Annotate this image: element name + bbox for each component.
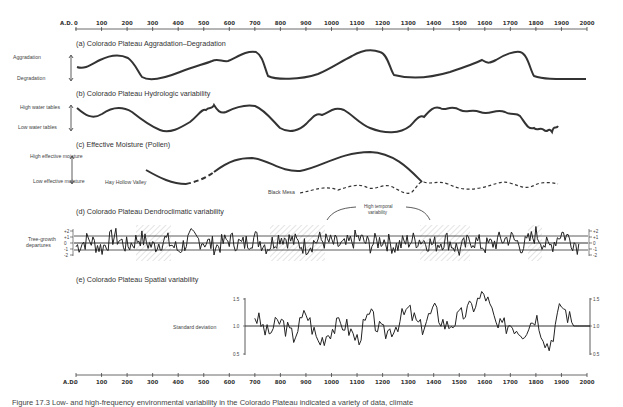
panel-a-line [77, 50, 586, 79]
axis-tick-label: 1000 [324, 379, 339, 385]
panel-c-high-label: High effective moisture [30, 153, 83, 159]
axis-tick-label: 1600 [477, 20, 492, 26]
axis-tick-label: 1100 [350, 20, 365, 26]
panel-e: (e) Colorado Plateau Spatial variability… [76, 275, 600, 357]
panel-a-title: (a) Colorado Plateau Aggradation–Degrada… [76, 39, 226, 48]
figure-canvas: A.D. 01002003004005006007008009001000110… [0, 0, 623, 407]
panel-e-ylabel: Standard deviation [173, 324, 216, 330]
axis-tick-label: 300 [147, 379, 159, 385]
panel-b-title: (b) Colorado Plateau Hydrologic variabil… [76, 89, 211, 98]
series-label-black-mesa: Black Mesa [268, 189, 295, 195]
axis-tick-label: 800 [275, 379, 287, 385]
axis-tick-label: 1700 [503, 379, 518, 385]
panel-a-high-label: Aggradation [13, 54, 41, 60]
svg-text:-1: -1 [593, 247, 598, 252]
svg-text:-2: -2 [593, 253, 598, 258]
axis-tick-label: 900 [300, 20, 312, 26]
axis-tick-label: 1200 [375, 20, 390, 26]
axis-tick-label: 0 [74, 20, 78, 26]
panel-e-line [255, 292, 590, 351]
panel-d-title: (d) Colorado Plateau Dendroclimatic vari… [76, 207, 224, 216]
axis-tick-label: 900 [300, 379, 312, 385]
axis-tick-label: 1000 [324, 20, 339, 26]
svg-text:0: 0 [593, 241, 596, 246]
svg-text:1.5: 1.5 [233, 297, 240, 302]
axis-tick-label: 1800 [528, 20, 543, 26]
axis-tick-label: 200 [121, 20, 133, 26]
svg-text:0.5: 0.5 [593, 352, 600, 357]
panel-d: (d) Colorado Plateau Dendroclimatic vari… [26, 204, 599, 261]
axis-tick-label: 800 [275, 20, 287, 26]
panel-c: (c) Effective Moisture (Pollen) High eff… [30, 140, 558, 195]
axis-tick-label: 700 [249, 20, 261, 26]
axis-tick-label: 200 [121, 379, 133, 385]
axis-tick-label: 1800 [528, 379, 543, 385]
series-label-hay-hollow: Hay Hollow Valley [105, 179, 147, 185]
axis-tick-label: 400 [173, 20, 185, 26]
svg-text:-2: -2 [64, 253, 69, 258]
axis-tick-label: 2000 [579, 20, 594, 26]
axis-tick-label: 1600 [477, 379, 492, 385]
axis-tick-label: 400 [173, 379, 185, 385]
axis-tick-label: 1200 [375, 379, 390, 385]
axis-tick-label: 600 [224, 20, 236, 26]
axis-tick-label: 1100 [350, 379, 365, 385]
axis-tick-label: 100 [96, 20, 108, 26]
svg-text:0.5: 0.5 [233, 352, 240, 357]
svg-text:0: 0 [64, 241, 67, 246]
svg-text:-1: -1 [64, 247, 69, 252]
svg-text:1.0: 1.0 [593, 324, 600, 329]
axis-tick-label: 100 [96, 379, 108, 385]
svg-text:+1: +1 [64, 235, 70, 240]
panel-c-low-label: Low effective moisture [33, 178, 85, 184]
axis-tick-label: 600 [224, 379, 236, 385]
panel-a-low-label: Degradation [17, 75, 45, 81]
axis-tick-label: 300 [147, 20, 159, 26]
axis-tick-label: 1700 [503, 20, 518, 26]
top-axis: A.D. 01002003004005006007008009001000110… [60, 20, 595, 31]
svg-text:+2: +2 [593, 229, 599, 234]
svg-text:+1: +1 [593, 235, 599, 240]
axis-tick-label: 1400 [426, 379, 441, 385]
panel-b-low-label: Low water tables [18, 124, 57, 130]
axis-tick-label: 1900 [554, 379, 569, 385]
hay-hollow-line [146, 170, 186, 184]
panel-e-title: (e) Colorado Plateau Spatial variability [76, 275, 199, 284]
axis-tick-label: 700 [249, 379, 261, 385]
axis-tick-label: 1900 [554, 20, 569, 26]
figure-caption: Figure 17.3 Low- and high-frequency envi… [12, 398, 413, 407]
panel-b: (b) Colorado Plateau Hydrologic variabil… [18, 89, 558, 132]
bottom-axis: A.D. 01002003004005006007008009001000110… [63, 373, 595, 385]
axis-tick-label: 0 [74, 379, 78, 385]
axis-tick-label: 1500 [452, 20, 467, 26]
axis-tick-label: 500 [198, 379, 210, 385]
panel-b-line [77, 105, 558, 132]
axis-tick-label: 1300 [401, 20, 416, 26]
annotation-high-temporal: High temporalvariability [364, 204, 393, 215]
svg-text:+2: +2 [64, 229, 70, 234]
panel-b-high-label: High water tables [20, 104, 60, 110]
axis-tick-label: 500 [198, 20, 210, 26]
panel-c-title: (c) Effective Moisture (Pollen) [76, 140, 170, 149]
axis-tick-label: 1400 [426, 20, 441, 26]
svg-text:1.0: 1.0 [233, 324, 240, 329]
axis-tick-label: 1500 [452, 379, 467, 385]
axis-prefix: A.D. [60, 20, 73, 26]
black-mesa-line [300, 182, 558, 194]
panel-d-ylabel: Tree-growthdepartures [26, 236, 56, 248]
axis-tick-label: 1300 [401, 379, 416, 385]
svg-text:1.5: 1.5 [593, 297, 600, 302]
panel-a: (a) Colorado Plateau Aggradation–Degrada… [13, 39, 586, 81]
axis-tick-label: 2000 [579, 379, 594, 385]
